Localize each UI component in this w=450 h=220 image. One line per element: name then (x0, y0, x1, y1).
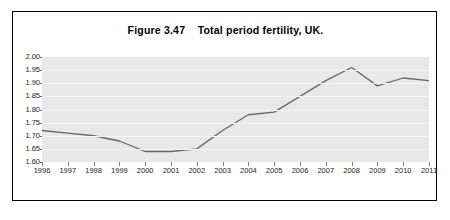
gridline (42, 83, 429, 84)
x-axis-tick-mark (94, 162, 95, 166)
x-axis-tick-mark (42, 162, 43, 166)
y-axis-tick-label: 2.00 (14, 53, 40, 61)
x-axis-tick-label: 2006 (287, 167, 313, 175)
x-axis-tick-mark (197, 162, 198, 166)
x-axis-tick-label: 1998 (81, 167, 107, 175)
x-axis-tick-label: 1999 (106, 167, 132, 175)
x-axis-tick-mark (352, 162, 353, 166)
y-axis-tick-label: 1.75 (14, 119, 40, 127)
gridline (42, 96, 429, 97)
x-axis-tick-label: 2009 (364, 167, 390, 175)
x-axis-tick-label: 1997 (55, 167, 81, 175)
y-axis-labels: 2.001.951.901.851.801.751.701.651.60 (13, 57, 40, 162)
x-axis-tick-label: 2002 (184, 167, 210, 175)
x-axis-tick-mark (274, 162, 275, 166)
x-axis-tick-mark (171, 162, 172, 166)
plot-area (42, 57, 429, 162)
x-axis-tick-label: 2005 (261, 167, 287, 175)
y-axis-tick-label: 1.65 (14, 145, 40, 153)
gridline (42, 70, 429, 71)
x-axis-tick-mark (403, 162, 404, 166)
x-axis-tick-label: 2008 (339, 167, 365, 175)
y-axis-tick-label: 1.80 (14, 106, 40, 114)
x-axis-tick-label: 2011 (416, 167, 442, 175)
x-axis-tick-label: 2001 (158, 167, 184, 175)
x-axis-tick-mark (223, 162, 224, 166)
gridline (42, 110, 429, 111)
x-axis-tick-mark (377, 162, 378, 166)
x-axis-tick-label: 2004 (235, 167, 261, 175)
x-axis-tick-mark (248, 162, 249, 166)
x-axis-tick-mark (300, 162, 301, 166)
x-axis-tick-label: 2000 (132, 167, 158, 175)
gridline (42, 123, 429, 124)
y-axis-tick-label: 1.95 (14, 66, 40, 74)
x-axis-tick-mark (119, 162, 120, 166)
gridline (42, 136, 429, 137)
y-axis-tick-label: 1.85 (14, 92, 40, 100)
figure-frame: Figure 3.47 Total period fertility, UK. … (12, 11, 437, 201)
x-axis-tick-label: 1996 (29, 167, 55, 175)
x-axis-tick-mark (145, 162, 146, 166)
x-axis-tick-mark (326, 162, 327, 166)
x-axis-tick-label: 2007 (313, 167, 339, 175)
gridline (42, 149, 429, 150)
x-axis-tick-label: 2010 (390, 167, 416, 175)
y-axis-tick-label: 1.70 (14, 132, 40, 140)
x-axis-tick-label: 2003 (210, 167, 236, 175)
figure-title: Figure 3.47 Total period fertility, UK. (13, 24, 438, 36)
y-axis-tick-label: 1.60 (14, 158, 40, 166)
x-axis-tick-mark (68, 162, 69, 166)
y-axis-tick-label: 1.90 (14, 79, 40, 87)
x-axis-labels: 1996199719981999200020012002200320042005… (42, 166, 429, 180)
x-axis-tick-mark (429, 162, 430, 166)
